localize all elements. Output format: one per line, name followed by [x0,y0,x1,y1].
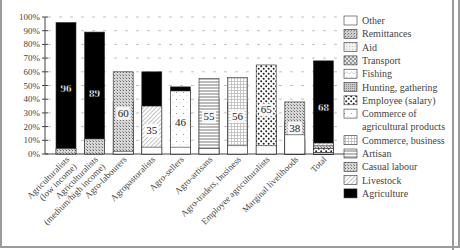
bar-segment [56,149,76,154]
legend-swatch [344,109,357,118]
legend-item: Artisan [344,148,391,159]
legend-item: Casual labour [344,161,418,172]
legend-swatch [344,149,357,158]
y-tick-label: 0% [28,149,41,159]
bar-segment [256,146,276,154]
legend-label: Commerce of [362,108,417,119]
legend-item: Commerce ofagricultural products [344,108,445,132]
legend-item: Hunting, gathering [344,82,438,93]
legend-label: Livestock [362,175,401,186]
bar-3: 6035 [142,72,162,154]
bar-value-label: 56 [232,110,244,122]
legend-label: Remittances [362,28,412,39]
legend-label: Casual labour [362,161,418,172]
bar-value-label: 46 [175,116,187,128]
legend-item: Transport [344,55,401,66]
legend-label: Other [362,15,385,26]
bars: 9689386060354946415538562965243868 [56,22,333,154]
legend-item: Aid [344,42,377,53]
legend-item: Livestock [344,175,401,186]
y-tick-label: 20% [24,122,41,132]
legend-label: Aid [362,42,377,53]
y-tick-label: 40% [24,94,41,104]
bar-6: 3856 [228,77,248,154]
legend-label: Employee (salary) [362,95,436,107]
y-tick-label: 60% [24,67,41,77]
legend-label: Fishing [362,68,392,79]
stacked-bar-chart: 0%10%20%30%40%50%60%70%80%90%100% 968938… [0,0,460,250]
legend-swatch [344,56,357,65]
bar-1: 89 [85,32,105,154]
legend-label: Hunting, gathering [362,82,438,93]
y-tick-label: 70% [24,53,41,63]
legend-swatch [344,43,357,52]
bar-value-label: 65 [261,103,273,115]
legend-label: Commerce, business [362,135,445,146]
bar-value-label: 38 [289,122,301,134]
bar-9: 68 [313,61,333,154]
x-tick-label: Marginal livelihoods [240,154,301,215]
bar-segment [285,135,305,154]
legend-item: Employee (salary) [344,95,436,107]
legend-swatch [344,162,357,171]
legend-item: Remittances [344,28,412,39]
legend-item: Fishing [344,68,392,79]
legend: OtherRemittancesAidTransportFishingHunti… [344,15,445,199]
x-axis-labels: Agriculturalists(low income)Agricultural… [25,154,329,227]
legend-item: Agriculture [344,188,409,199]
bar-value-label: 55 [204,110,216,122]
legend-swatch [344,16,357,25]
bar-segment [142,147,162,154]
y-tick-label: 90% [24,26,41,36]
legend-item: Commerce, business [344,135,445,146]
legend-swatch [344,69,357,78]
legend-label: Agriculture [362,188,409,199]
bar-2: 3860 [113,72,133,154]
bar-5: 4155 [199,79,219,154]
bar-segment [113,151,133,154]
bar-value-label: 96 [61,82,73,94]
legend-swatch [344,189,357,198]
bar-segment [199,149,219,154]
x-tick-label: Total [309,154,329,174]
bar-value-label: 89 [89,87,101,99]
legend-swatch [344,136,357,145]
bar-value-label: 68 [318,101,330,113]
legend-label: Transport [362,55,401,66]
bar-segment [228,146,248,154]
y-tick-label: 80% [24,39,41,49]
y-tick-label: 10% [24,135,41,145]
bar-segment [313,153,333,154]
legend-item: Other [344,15,385,26]
y-tick-label: 50% [24,81,41,91]
legend-swatch [344,176,357,185]
legend-label: Artisan [362,148,391,159]
legend-swatch [344,96,357,105]
bar-0: 96 [56,22,76,154]
bar-7: 2965 [256,65,276,154]
svg-text:Total: Total [309,154,329,174]
bar-value-label: 35 [146,124,158,136]
svg-text:Marginal livelihoods: Marginal livelihoods [240,154,301,215]
y-tick-label: 100% [19,12,41,22]
legend-swatch [344,83,357,92]
bar-8: 2438 [285,102,305,154]
legend-label: agricultural products [362,121,445,132]
bar-segment [85,139,105,154]
bar-value-label: 60 [118,107,130,119]
y-tick-label: 30% [24,108,41,118]
legend-swatch [344,29,357,38]
bar-4: 4946 [170,87,190,154]
bar-segment [170,147,190,154]
